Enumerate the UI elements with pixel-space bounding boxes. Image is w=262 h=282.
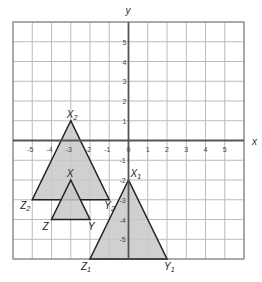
x-tick-label: -5 [27,146,33,153]
x-tick-label: -3 [66,146,72,153]
x-tick-label: 5 [223,146,227,153]
y-tick-label: -5 [120,236,126,243]
y-tick-label: 3 [123,78,127,85]
vertex-label-z: Z [42,221,50,232]
y-tick-label: 4 [123,59,127,66]
y-tick-label: -3 [120,197,126,204]
x-tick-label: 3 [184,146,188,153]
vertex-label-z2: Z2 [19,200,30,212]
x-tick-label: -4 [47,146,53,153]
y-tick-label: -2 [120,177,126,184]
vertex-label-z1: Z1 [80,261,91,273]
vertex-label-x2: X2 [66,109,78,121]
y-axis-label: y [125,5,132,16]
vertex-label-x: X [66,168,74,179]
y-tick-label: 1 [123,118,127,125]
vertex-label-x1: X1 [130,168,142,180]
y-tick-label: 5 [123,39,127,46]
x-axis-label: x [251,136,258,147]
x-tick-label: 1 [146,146,150,153]
y-tick-label: 2 [123,98,127,105]
coordinate-plane: xy-5-4-3-2-101234554321-1-2-3-4-5 X2Z2Y2… [0,0,262,282]
x-tick-label: -2 [85,146,91,153]
vertex-label-y2: Y2 [104,200,115,212]
x-tick-label: 2 [165,146,169,153]
y-tick-label: -4 [120,217,126,224]
vertex-label-y: Y [88,221,96,232]
x-tick-label: -1 [104,146,110,153]
y-tick-label: -1 [120,157,126,164]
vertex-label-y1: Y1 [164,261,175,273]
x-tick-label: 4 [204,146,208,153]
triangles [32,121,167,259]
x-tick-label: 0 [127,146,131,153]
grid-svg: xy-5-4-3-2-101234554321-1-2-3-4-5 X2Z2Y2… [0,0,262,282]
